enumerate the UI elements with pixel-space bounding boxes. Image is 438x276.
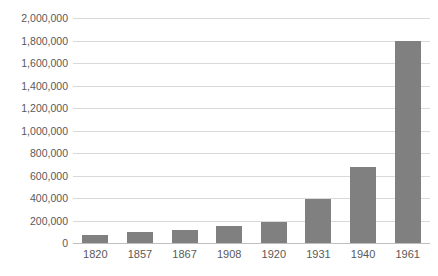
x-axis: 18201857186719081920193119401961 bbox=[73, 249, 430, 269]
x-tick-label: 1908 bbox=[217, 249, 241, 260]
x-tick-label: 1857 bbox=[128, 249, 152, 260]
y-axis: 0200,000400,000600,000800,0001,000,0001,… bbox=[0, 18, 68, 243]
y-tick-label: 2,000,000 bbox=[0, 13, 68, 24]
y-tick-label: 0 bbox=[0, 238, 68, 249]
y-tick-label: 1,000,000 bbox=[0, 125, 68, 136]
y-tick-label: 200,000 bbox=[0, 215, 68, 226]
bar-series bbox=[73, 18, 430, 243]
y-tick-label: 600,000 bbox=[0, 170, 68, 181]
bar bbox=[127, 232, 153, 243]
y-tick-label: 1,800,000 bbox=[0, 35, 68, 46]
y-tick-label: 800,000 bbox=[0, 148, 68, 159]
bar bbox=[216, 226, 242, 243]
bar bbox=[261, 222, 287, 243]
bar bbox=[395, 41, 421, 244]
y-tick-label: 1,600,000 bbox=[0, 58, 68, 69]
x-tick-label: 1961 bbox=[395, 249, 419, 260]
bar bbox=[82, 235, 108, 243]
x-tick-label: 1940 bbox=[351, 249, 375, 260]
y-tick-label: 1,400,000 bbox=[0, 80, 68, 91]
bar bbox=[305, 199, 331, 243]
y-tick-label: 1,200,000 bbox=[0, 103, 68, 114]
bar bbox=[172, 230, 198, 244]
x-tick-label: 1920 bbox=[262, 249, 286, 260]
x-tick-label: 1931 bbox=[306, 249, 330, 260]
y-tick-label: 400,000 bbox=[0, 193, 68, 204]
bar bbox=[350, 167, 376, 244]
axis-baseline bbox=[73, 243, 430, 244]
bar-chart: 0200,000400,000600,000800,0001,000,0001,… bbox=[0, 0, 438, 276]
x-tick-label: 1820 bbox=[83, 249, 107, 260]
x-tick-label: 1867 bbox=[172, 249, 196, 260]
